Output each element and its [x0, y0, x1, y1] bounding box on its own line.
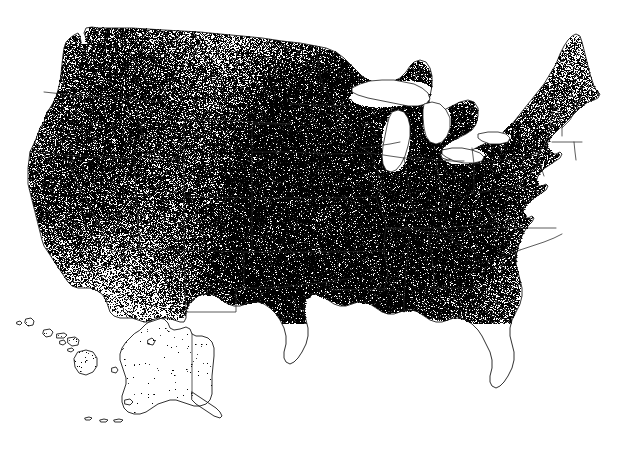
dot-density-layer — [0, 0, 626, 453]
dot-density-map-figure — [0, 0, 626, 453]
